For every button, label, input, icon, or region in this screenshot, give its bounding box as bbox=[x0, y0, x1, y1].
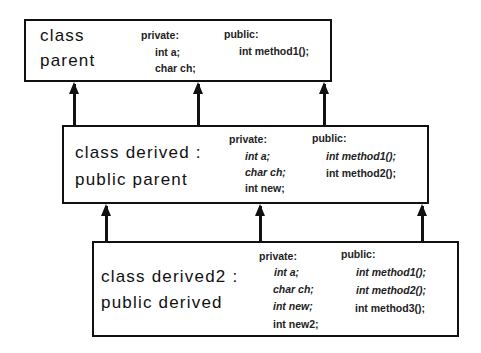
inheritance-arrow-icon bbox=[73, 84, 76, 126]
derived2-title-line1: class derived2 : bbox=[101, 268, 238, 285]
derived-public-label: public: bbox=[312, 133, 346, 144]
derived-title-line1: class derived : bbox=[75, 144, 202, 161]
derived-public-member: int method2(); bbox=[326, 168, 396, 179]
parent-public-label: public: bbox=[224, 29, 258, 40]
derived-inherited-private-member: int a; bbox=[245, 151, 270, 162]
derived2-inherited-public-member: int method2(); bbox=[356, 285, 426, 296]
derived2-private-member: int new2; bbox=[273, 319, 319, 330]
derived2-public-member: int method3(); bbox=[355, 303, 425, 314]
parent-title-line1: class bbox=[40, 27, 85, 44]
parent-private-label: private: bbox=[141, 30, 179, 41]
derived-private-label: private: bbox=[229, 134, 267, 145]
inheritance-arrow-icon bbox=[197, 84, 200, 126]
derived2-public-label: public: bbox=[341, 249, 375, 260]
derived-inherited-private-member: char ch; bbox=[245, 167, 286, 178]
derived2-inherited-private-member: int a; bbox=[274, 267, 299, 278]
derived2-title-line2: public derived bbox=[101, 294, 223, 311]
derived-title-line2: public parent bbox=[75, 171, 188, 188]
inheritance-arrow-icon bbox=[105, 206, 108, 242]
derived2-inherited-public-member: int method1(); bbox=[356, 267, 426, 278]
derived-inherited-public-member: int method1(); bbox=[326, 151, 396, 162]
derived2-inherited-private-member: int new; bbox=[273, 301, 313, 312]
parent-public-member: int method1(); bbox=[239, 46, 309, 57]
inheritance-arrow-icon bbox=[323, 84, 326, 126]
parent-private-member: char ch; bbox=[155, 63, 196, 74]
inheritance-arrow-icon bbox=[259, 206, 262, 242]
inheritance-arrow-icon bbox=[421, 206, 424, 242]
derived2-private-label: private: bbox=[259, 251, 297, 262]
parent-title-line2: parent bbox=[40, 52, 95, 69]
parent-private-member: int a; bbox=[155, 47, 180, 58]
derived2-inherited-private-member: char ch; bbox=[273, 284, 314, 295]
derived-private-member: int new; bbox=[245, 183, 285, 194]
